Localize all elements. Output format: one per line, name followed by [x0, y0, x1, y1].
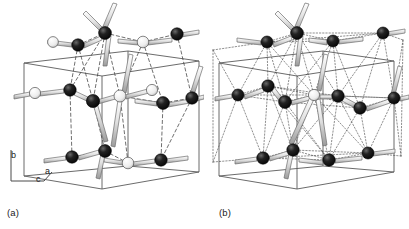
unit-cell-outline-b [219, 51, 394, 189]
atoms-b [232, 27, 400, 167]
panel-a: b c a (a) [0, 0, 204, 229]
panel-a-drawing [0, 0, 204, 229]
unit-cell-outline-a [24, 51, 199, 189]
panel-label-a: (a) [7, 207, 19, 218]
axis-label-a: a [45, 166, 50, 176]
crystal-structure-figure: b c a (a) [0, 0, 409, 229]
axis-label-b: b [11, 150, 16, 160]
panel-label-b: (b) [219, 207, 231, 218]
panel-b: (b) [205, 0, 409, 229]
axis-label-c: c [36, 174, 41, 184]
panel-b-drawing [205, 0, 409, 229]
